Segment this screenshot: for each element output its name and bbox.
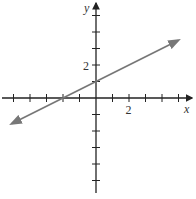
- coordinate-plane: y x 2 2: [0, 0, 196, 199]
- plotted-line: [96, 41, 178, 82]
- y-tick-label-2: 2: [83, 59, 89, 73]
- y-axis-label: y: [83, 1, 90, 15]
- x-tick-label-2: 2: [126, 103, 132, 117]
- plotted-line-lower: [12, 82, 96, 124]
- x-axis-label: x: [183, 102, 190, 116]
